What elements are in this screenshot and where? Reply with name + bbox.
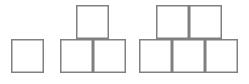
unit-square bbox=[190, 6, 222, 39]
figure-3-top-1-shape bbox=[156, 5, 189, 39]
figure-3-bottom-1 bbox=[139, 39, 172, 73]
figure-3-top-1 bbox=[156, 5, 189, 39]
unit-square bbox=[157, 6, 189, 39]
figure-3 bbox=[0, 0, 249, 84]
unit-square bbox=[173, 40, 205, 73]
block-pattern-diagram bbox=[0, 0, 249, 84]
figure-3-bottom-3-shape bbox=[205, 39, 238, 73]
figure-3-top-2-shape bbox=[189, 5, 222, 39]
figure-3-bottom-3 bbox=[205, 39, 238, 73]
unit-square bbox=[140, 40, 172, 73]
figure-3-bottom-2-shape bbox=[172, 39, 205, 73]
figure-3-top-2 bbox=[189, 5, 222, 39]
figure-3-bottom-2 bbox=[172, 39, 205, 73]
figure-3-bottom-1-shape bbox=[139, 39, 172, 73]
unit-square bbox=[206, 40, 238, 73]
